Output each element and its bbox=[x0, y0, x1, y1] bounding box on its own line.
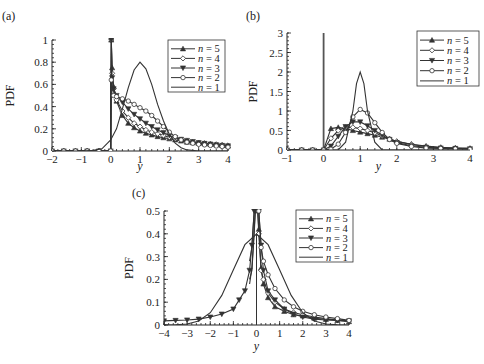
x-tick-label: −3 bbox=[181, 327, 193, 339]
x-tick-label: −2 bbox=[204, 327, 216, 339]
y-tick-label: 0 bbox=[155, 319, 161, 331]
y-tick-label: 0.3 bbox=[146, 251, 160, 263]
panel-label-b: (b) bbox=[246, 9, 260, 23]
x-tick-label: 3 bbox=[196, 153, 202, 165]
panel-label-c: (c) bbox=[132, 186, 145, 200]
y-tick-label: 0.2 bbox=[34, 123, 48, 135]
x-tick-label: 1 bbox=[357, 152, 363, 164]
y-tick-label: 0.6 bbox=[34, 78, 48, 90]
figure: (a) (b) (c) −2−10123400.20.40.60.81PDFyn… bbox=[0, 0, 484, 364]
chart-panel-b: −10123400.511.522.53PDFyn = 5n = 4n = 3n… bbox=[246, 27, 479, 173]
x-tick-label: 3 bbox=[323, 327, 329, 339]
y-tick-label: 0.5 bbox=[269, 125, 283, 137]
legend: n = 5n = 4n = 3n = 2n = 1 bbox=[168, 40, 225, 93]
y-tick-label: 0 bbox=[43, 145, 49, 157]
x-tick-label: 3 bbox=[431, 152, 437, 164]
chart-panel-c: −4−3−2−10123400.10.20.30.40.5PDFyn = 5n … bbox=[122, 205, 353, 353]
x-tick-label: 4 bbox=[467, 152, 473, 164]
x-tick-label: −1 bbox=[75, 153, 87, 165]
x-tick-label: 0 bbox=[108, 153, 114, 165]
x-tick-label: 4 bbox=[225, 153, 231, 165]
y-tick-label: 1 bbox=[278, 105, 284, 117]
x-tick-label: −1 bbox=[228, 327, 240, 339]
x-tick-label: 0 bbox=[254, 327, 260, 339]
x-tick-label: 2 bbox=[167, 153, 173, 165]
y-tick-label: 0 bbox=[278, 144, 284, 156]
y-axis-label: PDF bbox=[3, 84, 17, 106]
y-tick-label: 2.5 bbox=[269, 47, 283, 59]
x-tick-label: 2 bbox=[300, 327, 306, 339]
y-axis-label: PDF bbox=[246, 80, 260, 102]
y-tick-label: 1.5 bbox=[269, 86, 283, 98]
legend-entry: n = 1 bbox=[326, 252, 348, 263]
y-tick-label: 0.2 bbox=[146, 273, 160, 285]
y-tick-label: 0.8 bbox=[34, 56, 48, 68]
y-tick-label: 0.5 bbox=[146, 205, 160, 217]
chart-panel-a: −2−10123400.20.40.60.81PDFyn = 5n = 4n =… bbox=[3, 34, 231, 173]
y-tick-label: 3 bbox=[278, 27, 284, 39]
panel-label-a: (a) bbox=[2, 9, 15, 23]
x-tick-label: 0 bbox=[321, 152, 327, 164]
x-axis-label: y bbox=[375, 159, 382, 173]
y-tick-label: 0.4 bbox=[146, 228, 160, 240]
y-tick-label: 0.4 bbox=[34, 101, 48, 113]
x-axis-label: y bbox=[136, 159, 143, 173]
legend: n = 5n = 4n = 3n = 2n = 1 bbox=[417, 31, 479, 86]
y-tick-label: 1 bbox=[43, 34, 49, 46]
x-tick-label: 1 bbox=[277, 327, 283, 339]
x-tick-label: 2 bbox=[394, 152, 400, 164]
y-tick-label: 0.1 bbox=[146, 296, 160, 308]
legend: n = 5n = 4n = 3n = 2n = 1 bbox=[296, 210, 353, 263]
x-tick-label: 4 bbox=[346, 327, 352, 339]
x-axis-label: y bbox=[253, 339, 260, 353]
y-tick-label: 2 bbox=[278, 66, 284, 78]
legend-entry: n = 1 bbox=[447, 75, 469, 86]
legend-entry: n = 1 bbox=[198, 82, 220, 93]
y-axis-label: PDF bbox=[122, 257, 136, 279]
